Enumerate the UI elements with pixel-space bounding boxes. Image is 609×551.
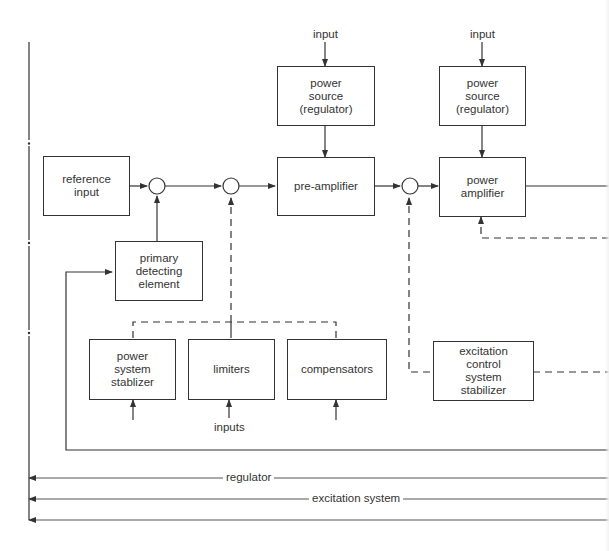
power-source-regulator-block-1: power source (regulator) <box>277 66 375 126</box>
regulator-label: regulator <box>223 471 274 484</box>
power-source-regulator-block-2: power source (regulator) <box>439 66 526 126</box>
reference-input-label: reference input <box>62 173 111 199</box>
inputs-label: inputs <box>211 421 248 434</box>
excitation-control-system-stabilizer-label: excitation control system stabilizer <box>459 345 508 397</box>
power-amplifier-label: power amplifier <box>461 174 504 200</box>
page-edge <box>605 0 609 551</box>
power-amplifier-block: power amplifier <box>439 157 526 217</box>
power-source-1-label: power source (regulator) <box>299 77 352 116</box>
pre-amplifier-block: pre-amplifier <box>277 157 375 216</box>
input-label-2: input <box>467 28 498 41</box>
excitation-control-system-stabilizer-block: excitation control system stabilizer <box>433 341 534 401</box>
limiters-block: limiters <box>188 339 275 400</box>
limiters-label: limiters <box>213 363 249 376</box>
compensators-block: compensators <box>287 339 387 400</box>
input-label-1: input <box>310 28 341 41</box>
reference-input-block: reference input <box>43 156 130 216</box>
compensators-label: compensators <box>301 363 373 376</box>
pre-amplifier-label: pre-amplifier <box>294 180 358 193</box>
power-system-stabilizer-block: power system stablizer <box>89 339 176 400</box>
power-system-stabilizer-label: power system stablizer <box>111 350 154 389</box>
primary-detecting-element-block: primary detecting element <box>115 241 203 301</box>
power-source-2-label: power source (regulator) <box>456 77 509 116</box>
excitation-system-label: excitation system <box>309 492 403 505</box>
primary-detecting-element-label: primary detecting element <box>136 252 183 291</box>
